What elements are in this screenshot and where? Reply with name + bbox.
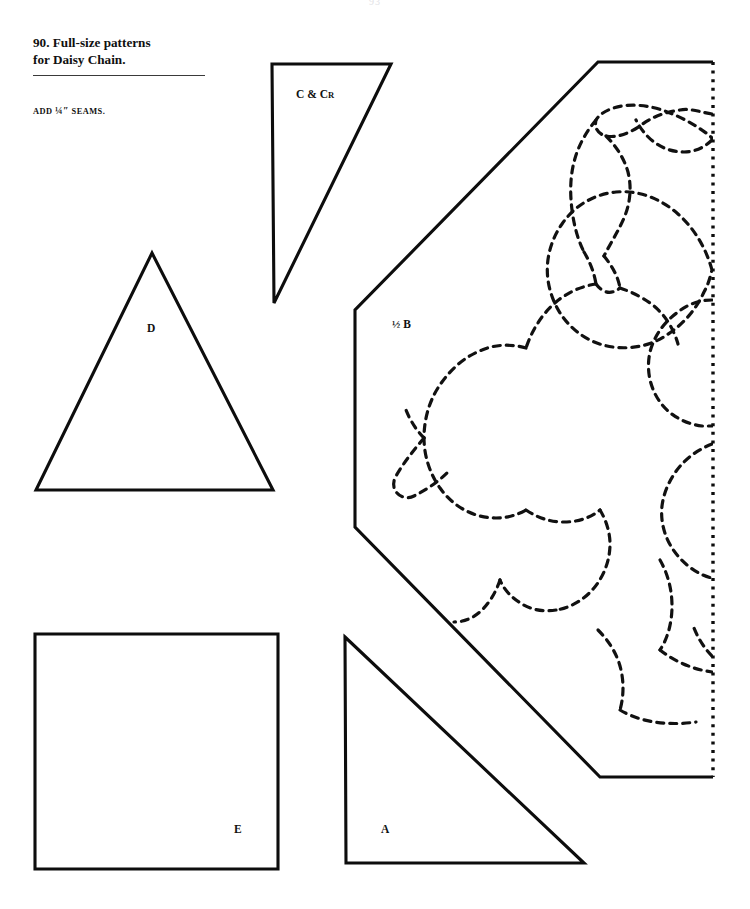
piece-label-a: A: [381, 823, 389, 835]
piece-b-outline: [355, 62, 713, 777]
quilting-stitch-line: [500, 580, 556, 611]
quilting-stitch-line: [636, 120, 712, 152]
quilting-stitch-line: [526, 510, 600, 522]
piece-label-b-text: B: [403, 318, 411, 330]
piece-label-b-fraction: ½: [392, 318, 400, 330]
quilting-stitch-line: [604, 136, 630, 256]
quilting-stitch-line: [598, 630, 623, 710]
piece-label-d: D: [147, 322, 155, 334]
quilting-stitch-line: [620, 710, 696, 724]
quilting-stitch-line: [604, 256, 620, 288]
piece-label-c: C & CR: [296, 88, 334, 100]
quilting-stitch-line: [648, 300, 712, 426]
quilting-stitch-line: [454, 580, 500, 622]
piece-label-e: E: [234, 823, 242, 835]
pattern-sheet: 93 90. Full-size patterns for Daisy Chai…: [0, 0, 750, 909]
quilting-stitch-line: [596, 284, 620, 292]
quilting-motif-group: [394, 105, 712, 723]
piece-label-b: ½ B: [392, 318, 411, 330]
quilting-stitch-line: [595, 105, 712, 138]
quilting-stitch-line: [406, 410, 424, 438]
quilting-stitch-line: [694, 628, 712, 656]
pattern-shapes-canvas: [0, 0, 750, 909]
quilting-stitch-line: [660, 650, 712, 672]
quilting-stitch-line: [556, 510, 610, 610]
quilting-stitch-line: [662, 444, 712, 578]
quilting-stitch-line: [424, 345, 526, 518]
quilting-stitch-line: [571, 120, 596, 252]
quilting-stitch-line: [547, 192, 712, 348]
quilting-stitch-line: [584, 252, 596, 284]
piece-label-c-subscript: R: [328, 90, 334, 100]
piece-d-outline: [36, 253, 273, 490]
quilting-stitch-line: [660, 560, 672, 650]
quilting-stitch-line: [620, 288, 678, 344]
piece-label-c-text: C & C: [296, 88, 328, 100]
